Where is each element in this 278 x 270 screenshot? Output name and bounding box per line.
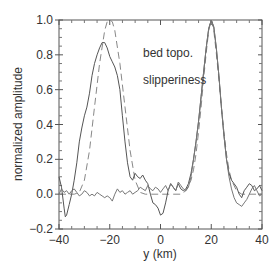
y-tick-label: 0.8 [36,48,53,62]
x-tick-label: 40 [255,233,269,247]
y-tick-label: −0.2 [29,222,53,236]
x-tick-label: 0 [157,233,164,247]
y-tick-label: 0.4 [36,118,53,132]
y-axis-label: normalized amplitude [11,67,25,181]
x-axis-label: y (km) [143,247,176,261]
x-tick-label: −20 [100,233,121,247]
x-tick-label: 20 [205,233,219,247]
annotation-bed-topo: bed topo. [143,46,193,60]
y-tick-label: 0.6 [36,83,53,97]
y-tick-label: 0.2 [36,152,53,166]
chart: −40−2002040−0.20.00.20.40.60.81.0 y (km)… [0,0,278,270]
y-tick-label: 1.0 [36,13,53,27]
annotation-slipperiness: slipperiness [143,73,206,87]
y-tick-label: 0.0 [36,187,53,201]
